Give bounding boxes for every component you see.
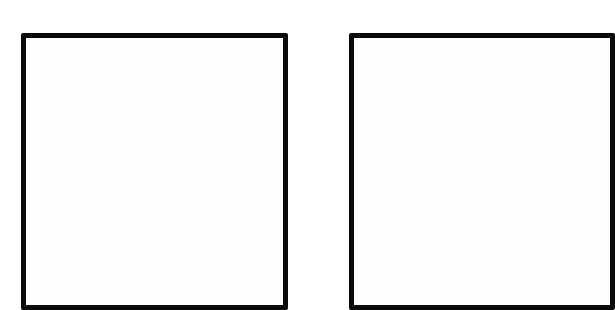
empty-square-right <box>349 33 615 310</box>
empty-square-left <box>21 33 288 310</box>
